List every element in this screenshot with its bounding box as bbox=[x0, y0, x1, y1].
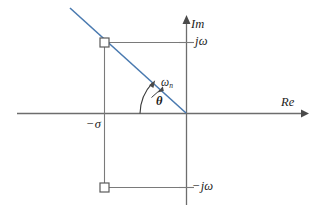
minus-sigma-label: −σ bbox=[86, 118, 101, 131]
jw-label: jω bbox=[195, 35, 208, 48]
minus-jw-label: −jω bbox=[192, 180, 213, 193]
s-plane-diagram: Im Re jω −jω −σ θ ωn bbox=[0, 0, 320, 217]
imaginary-axis-arrowhead bbox=[183, 15, 191, 24]
omega-n-subscript: n bbox=[169, 81, 173, 90]
pole-marker-lower[interactable] bbox=[100, 183, 109, 192]
real-axis-label: Re bbox=[281, 96, 295, 109]
complex-plane-svg bbox=[0, 0, 320, 217]
real-axis-arrowhead bbox=[301, 110, 309, 118]
imaginary-axis-label: Im bbox=[191, 18, 205, 31]
theta-label: θ bbox=[156, 95, 163, 108]
omega-n-line bbox=[70, 8, 186, 113]
theta-angle-arc bbox=[140, 83, 153, 114]
omega-n-label: ωn bbox=[161, 77, 173, 89]
pole-marker-upper[interactable] bbox=[100, 38, 109, 47]
